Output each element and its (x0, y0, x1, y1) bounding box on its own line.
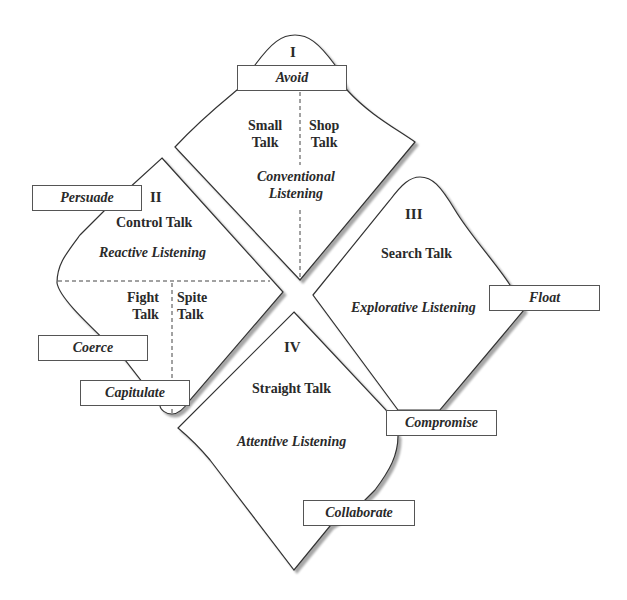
strategy-capitulate: Capitulate (80, 380, 190, 406)
strategy-float: Float (489, 285, 600, 311)
explorative-listening-label: Explorative Listening (351, 301, 476, 315)
conventional-listening-label: Conventional Listening (257, 168, 335, 202)
small-talk-label: Small Talk (248, 117, 282, 151)
attentive-listening-label: Attentive Listening (237, 435, 346, 449)
quadrant-4-numeral: IV (284, 340, 301, 355)
spite-talk-label: Spite Talk (177, 289, 207, 323)
strategy-coerce: Coerce (38, 335, 148, 361)
straight-talk-label: Straight Talk (252, 382, 331, 396)
search-talk-label: Search Talk (381, 247, 452, 261)
fight-talk-label: Fight Talk (127, 289, 159, 323)
strategy-persuade: Persuade (32, 185, 142, 211)
quadrant-3-numeral: III (405, 207, 423, 222)
strategy-collaborate: Collaborate (303, 500, 415, 526)
quadrant-2-numeral: II (150, 190, 162, 205)
strategy-avoid: Avoid (237, 65, 347, 91)
reactive-listening-label: Reactive Listening (99, 246, 206, 260)
control-talk-label: Control Talk (116, 216, 192, 230)
strategy-compromise: Compromise (386, 410, 497, 436)
shop-talk-label: Shop Talk (309, 117, 339, 151)
quadrant-1-numeral: I (290, 45, 296, 60)
